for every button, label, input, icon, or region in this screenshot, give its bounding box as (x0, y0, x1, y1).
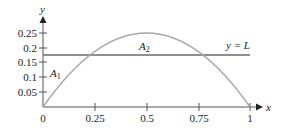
x-tick-0.5: 0.5 (140, 112, 154, 124)
x-axis-label: x (265, 101, 271, 113)
x-tick-0.75: 0.75 (189, 112, 209, 124)
x-axis-arrow-icon (256, 104, 263, 111)
y-tick-0.25: 0.25 (18, 27, 38, 39)
y-axis-arrow-icon (40, 16, 47, 23)
x-tick-0: 0 (40, 112, 46, 124)
y-axis-label: y (39, 3, 45, 15)
area-label-a1: A1 (49, 67, 61, 81)
y-tick-0.15: 0.15 (18, 56, 38, 68)
y-tick-0.05: 0.05 (18, 86, 38, 98)
x-tick-0.25: 0.25 (85, 112, 105, 124)
line-label: y = L (225, 39, 250, 51)
x-tick-1: 1 (247, 112, 253, 124)
chart: x y 0 0.25 0.5 0.75 1 0.25 0.2 0.15 0.1 … (0, 0, 281, 129)
area-label-a2: A2 (138, 40, 150, 54)
y-tick-0.1: 0.1 (23, 71, 37, 83)
y-tick-0.2: 0.2 (23, 42, 37, 54)
